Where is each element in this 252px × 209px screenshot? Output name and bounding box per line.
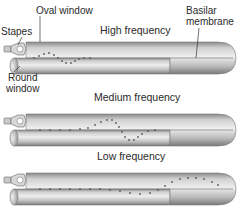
tube-high-frequency <box>4 42 236 74</box>
oval-window-label: Oval window <box>36 5 93 16</box>
panel-title-low: Low frequency <box>97 150 165 162</box>
tube-low-frequency <box>4 173 236 205</box>
stapes-label: Stapes <box>1 26 32 37</box>
round-window-label-line1: Round <box>8 72 37 83</box>
panel-title-medium: Medium frequency <box>94 91 180 103</box>
panel-title-high: High frequency <box>100 24 171 36</box>
round-window-label-line2: window <box>6 83 39 94</box>
tube-medium-frequency <box>4 114 236 146</box>
basilar-label-line1: Basilar <box>186 5 217 16</box>
basilar-label-line2: membrane <box>186 16 234 27</box>
